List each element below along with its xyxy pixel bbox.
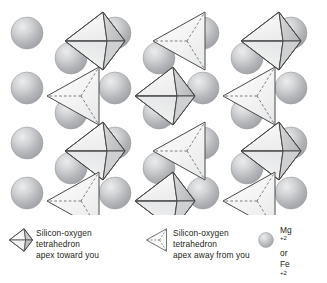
cation-sphere — [275, 72, 307, 104]
cation-sphere — [275, 177, 307, 209]
cation-sphere — [11, 17, 43, 49]
legend-label-cation: Mg+2 or Fe+2 — [280, 225, 292, 282]
cation-sphere — [99, 177, 131, 209]
legend: Silicon-oxygen tetrahedron apex toward y… — [0, 215, 327, 283]
legend-label-apex-toward: Silicon-oxygen tetrahedron apex toward y… — [36, 228, 99, 262]
crystal-lattice-diagram — [0, 0, 327, 215]
tetrahedron-apex-toward — [135, 172, 195, 215]
legend-line: apex away from you — [173, 250, 250, 261]
legend-line: tetrahedron — [36, 239, 99, 250]
cation-sphere-icon — [258, 232, 274, 248]
tetrahedron-group — [47, 12, 301, 215]
legend-line: Silicon-oxygen — [36, 228, 99, 239]
tetrahedron-apex-toward-icon — [8, 228, 34, 252]
cation-sphere — [11, 72, 43, 104]
legend-line: Silicon-oxygen — [173, 228, 250, 239]
legend-item-apex-away: Silicon-oxygen tetrahedron apex away fro… — [145, 228, 250, 262]
cation-fe-charge: +2 — [280, 270, 287, 276]
legend-label-apex-away: Silicon-oxygen tetrahedron apex away fro… — [173, 228, 250, 262]
silicate-structure-figure: Silicon-oxygen tetrahedron apex toward y… — [0, 0, 327, 283]
legend-line: apex toward you — [36, 250, 99, 261]
cation-sphere — [11, 127, 43, 159]
tetrahedron-apex-away-icon — [145, 228, 171, 252]
cation-conjunction: or — [280, 248, 292, 259]
legend-item-cation: Mg+2 or Fe+2 — [258, 225, 292, 282]
legend-line: tetrahedron — [173, 239, 250, 250]
cation-sphere — [99, 72, 131, 104]
cation-fe: Fe+2 — [280, 259, 292, 282]
cation-sphere — [11, 177, 43, 209]
cation-mg-charge: +2 — [280, 236, 287, 242]
legend-item-apex-toward: Silicon-oxygen tetrahedron apex toward y… — [8, 228, 99, 262]
cation-mg: Mg+2 — [280, 225, 292, 248]
